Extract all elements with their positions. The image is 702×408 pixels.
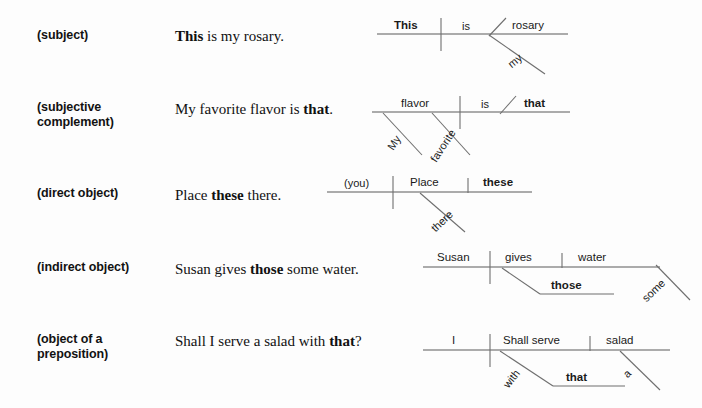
diagram-3-subject: (you) — [344, 177, 369, 189]
sentence-3-bold-word: these — [211, 187, 244, 203]
role-label-object-of-preposition: (object of a preposition) — [37, 332, 108, 362]
diagram-2-verb: is — [481, 98, 489, 110]
role-label-direct-object: (direct object) — [37, 186, 118, 201]
diagram-2-complement: that — [524, 97, 545, 109]
sentence-row-5: Shall I serve a salad with that? — [175, 332, 362, 350]
sentence-5-bold-word: that — [329, 333, 355, 349]
diagram-1-subject: This — [394, 19, 418, 31]
role-label-subjective-complement: (subjective complement) — [37, 100, 114, 130]
sentence-1-bold-word: This — [175, 28, 203, 44]
sentence-5-lead: Shall I serve a salad with — [175, 333, 329, 349]
sentence-row-4: Susan gives those some water. — [175, 260, 359, 278]
diagram-5-subject: I — [452, 334, 455, 346]
diagram-4-object: water — [578, 251, 606, 263]
diagram-3-object: these — [483, 176, 513, 188]
diagram-5-object: salad — [606, 334, 634, 346]
sentence-row-3: Place these there. — [175, 186, 281, 204]
sentence-4-bold-word: those — [250, 261, 283, 277]
diagram-4-indirect-object: those — [551, 279, 582, 291]
sentence-3-lead: Place — [175, 187, 211, 203]
diagram-1-complement: rosary — [512, 19, 544, 31]
sentence-row-1: This is my rosary. — [175, 27, 284, 45]
diagram-4-verb: gives — [505, 251, 532, 263]
sentence-row-2: My favorite flavor is that. — [175, 100, 333, 118]
diagram-2-subject: flavor — [401, 97, 429, 109]
sentence-3-tail: there. — [244, 187, 281, 203]
sentence-1-rest: is my rosary. — [203, 28, 284, 44]
sentence-5-tail: ? — [355, 333, 362, 349]
diagram-4-subject: Susan — [437, 251, 470, 263]
diagram-1-verb: is — [462, 20, 470, 32]
diagram-5-verb: Shall serve — [503, 334, 560, 346]
sentence-2-lead: My favorite flavor is — [175, 101, 303, 117]
role-label-indirect-object: (indirect object) — [37, 260, 129, 275]
diagram-3-verb: Place — [410, 176, 439, 188]
sentence-2-bold-word: that — [303, 101, 329, 117]
role-label-subject: (subject) — [37, 28, 88, 43]
sentence-2-tail: . — [329, 101, 333, 117]
sentence-4-tail: some water. — [283, 261, 358, 277]
diagram-5-prep-object: that — [566, 371, 587, 383]
sentence-4-lead: Susan gives — [175, 261, 250, 277]
page-canvas: (subject) (subjective complement) (direc… — [0, 0, 702, 408]
